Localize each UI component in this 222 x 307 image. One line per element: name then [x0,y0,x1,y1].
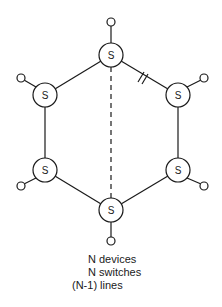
switch-label: S [42,90,49,101]
break-marker-icon [138,72,148,84]
device-icon [200,74,208,82]
caption-lines: (N-1) lines [72,279,123,292]
device-icon [17,182,25,190]
device-icon [107,237,115,245]
switch-label: S [108,205,115,216]
switch-label: S [175,165,182,176]
device-icon [200,182,208,190]
switch-label: S [175,90,182,101]
caption-devices: N devices [88,253,136,266]
caption-switches: N switches [88,266,141,279]
device-icon [107,18,115,26]
switch-label: S [108,50,115,61]
switch-label: S [42,165,49,176]
device-icon [17,74,25,82]
